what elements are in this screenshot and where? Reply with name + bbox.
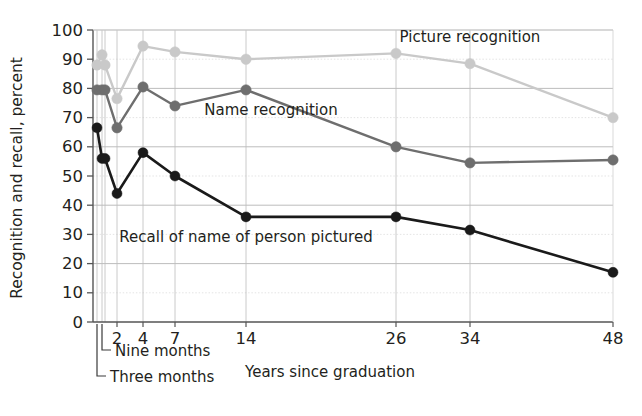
chart-figure: 0102030405060708090100 24714263448 Nine … [0, 0, 642, 416]
y-tick-label: 10 [62, 283, 83, 302]
series-labels: Picture recognitionName recognitionRecal… [119, 28, 540, 246]
y-axis-ticks: 0102030405060708090100 [52, 21, 94, 332]
series-3 [92, 123, 618, 278]
y-tick-label: 70 [62, 108, 83, 127]
y-tick-label: 20 [62, 254, 83, 273]
x-tick-label: 14 [236, 329, 257, 348]
recognition-recall-line-chart: 0102030405060708090100 24714263448 Nine … [0, 0, 642, 416]
y-tick-label: 60 [62, 137, 83, 156]
y-tick-label: 40 [62, 196, 83, 215]
x-tick-label: 48 [603, 329, 624, 348]
series-label: Picture recognition [400, 28, 541, 46]
y-tick-label: 50 [62, 167, 83, 186]
series-2 [92, 82, 618, 168]
x-tick-label: 34 [460, 329, 481, 348]
y-tick-label: 90 [62, 50, 83, 69]
y-tick-label: 80 [62, 79, 83, 98]
y-axis-title: Recognition and recall, percent [8, 57, 26, 299]
series-1 [92, 41, 618, 123]
annotation-label: Three months [109, 368, 214, 386]
series-label: Recall of name of person pictured [119, 228, 372, 246]
y-tick-label: 100 [52, 21, 84, 40]
x-tick-label: 26 [386, 329, 407, 348]
y-tick-label: 30 [62, 225, 83, 244]
x-axis-title: Years since graduation [244, 363, 415, 381]
series-label: Name recognition [204, 101, 337, 119]
annotation-label: Nine months [115, 342, 211, 360]
y-tick-label: 0 [73, 313, 84, 332]
